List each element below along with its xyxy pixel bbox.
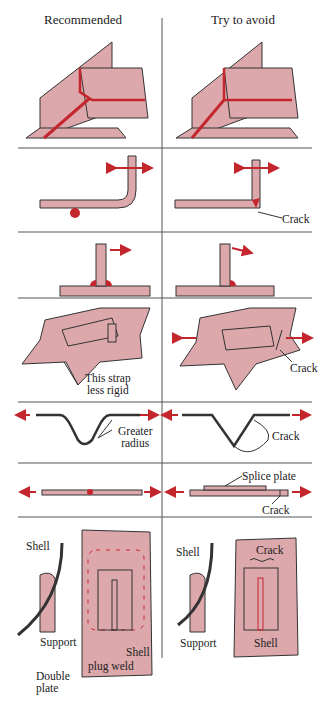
- label-crack-splice: Crack: [262, 504, 289, 516]
- t-joint-recommended: [60, 244, 150, 296]
- bent-bar-avoid: [175, 160, 282, 218]
- corner-gusset-recommended: [26, 42, 148, 138]
- label-crack-shell: Crack: [256, 544, 283, 556]
- diagram-canvas: [0, 0, 327, 705]
- bent-bar-recommended: [40, 156, 148, 218]
- strap-avoid: [178, 308, 308, 390]
- label-plug-weld: plug weld: [88, 660, 134, 672]
- label-crack-corrugation: Crack: [272, 430, 299, 442]
- label-shell-left: Shell: [26, 540, 50, 552]
- label-crack-strap: Crack: [290, 362, 317, 374]
- label-shell-plate: Shell: [126, 646, 150, 658]
- label-strap: This strapless rigid: [85, 372, 131, 396]
- label-shell-right: Shell: [176, 546, 200, 558]
- corner-gusset-avoid: [176, 42, 298, 138]
- label-shell-right-plate: Shell: [254, 637, 278, 649]
- label-double-plate: Doubleplate: [36, 670, 70, 694]
- label-greater-radius: Greaterradius: [118, 425, 152, 449]
- t-joint-avoid: [176, 244, 274, 296]
- label-support-left: Support: [40, 636, 76, 648]
- label-splice-plate: Splice plate: [242, 470, 296, 482]
- splice-recommended: [24, 489, 156, 495]
- label-support-right: Support: [180, 637, 216, 649]
- label-crack-bent: Crack: [282, 213, 309, 225]
